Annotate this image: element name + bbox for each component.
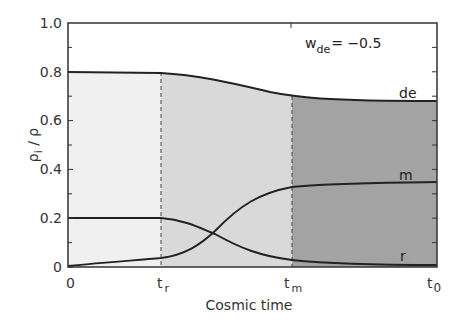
x-tick-label: t0 [427, 275, 441, 295]
x-tick-label: tm [284, 275, 302, 295]
w-de-annotation: wde= −0.5 [305, 35, 381, 56]
series-label-de: de [399, 85, 417, 101]
y-tick-label: 0.8 [40, 64, 62, 80]
series-label-r: r [400, 248, 406, 264]
y-tick-label: 1.0 [40, 15, 62, 31]
y-axis-title: ρi / ρ [25, 128, 45, 163]
x-tick-label: tr [157, 275, 170, 295]
y-tick-label: 0.2 [40, 210, 62, 226]
x-axis-title: Cosmic time [206, 297, 293, 313]
y-tick-label: 0.6 [40, 112, 62, 128]
x-tick-label: 0 [66, 275, 75, 291]
y-tick-label: 0.4 [40, 161, 62, 177]
chart-canvas: 0 0.2 0.4 0.6 0.8 1.0 0 tr tm t0 Cosmic … [0, 0, 459, 329]
era-matter [161, 73, 292, 267]
y-tick-label: 0 [53, 259, 62, 275]
series-label-m: m [399, 167, 413, 183]
era-radiation [68, 72, 161, 267]
